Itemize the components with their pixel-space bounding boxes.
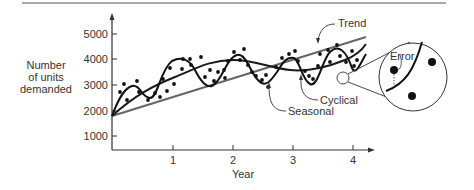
x-tick-2: 2 — [230, 154, 236, 166]
x-axis: 1 2 3 4 Year — [112, 145, 375, 180]
demand-components-chart: 5000 4000 3000 2000 1000 Number of units… — [0, 0, 474, 190]
inset-point-1 — [390, 66, 398, 74]
svg-text:demanded: demanded — [20, 83, 72, 95]
inset-point-3 — [408, 92, 416, 100]
svg-text:Trend: Trend — [338, 17, 366, 29]
inset-point-2 — [428, 58, 436, 66]
error-label: Error — [390, 50, 415, 62]
y-axis: 5000 4000 3000 2000 1000 — [84, 13, 117, 150]
x-tick-3: 3 — [290, 154, 296, 166]
y-tick-1000: 1000 — [84, 130, 108, 142]
svg-text:of units: of units — [28, 71, 64, 83]
error-inset: Error — [379, 42, 447, 111]
y-axis-label: Number of units demanded — [20, 59, 72, 95]
x-tick-4: 4 — [350, 154, 356, 166]
y-tick-4000: 4000 — [84, 53, 108, 65]
x-tick-1: 1 — [170, 154, 176, 166]
y-tick-3000: 3000 — [84, 79, 108, 91]
y-tick-5000: 5000 — [84, 28, 108, 40]
x-axis-label: Year — [232, 168, 255, 180]
svg-text:Seasonal: Seasonal — [288, 105, 334, 117]
svg-text:Number: Number — [26, 59, 65, 71]
y-tick-2000: 2000 — [84, 105, 108, 117]
